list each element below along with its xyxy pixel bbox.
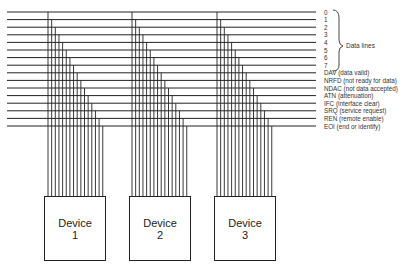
device-1-box: Device 1	[44, 196, 106, 261]
device-2-name: Device	[143, 217, 177, 229]
device-2-number: 2	[157, 229, 163, 241]
bus-diagram: 01234567DAV (data valid)NRFD (not ready …	[0, 0, 402, 271]
device-1-number: 1	[72, 229, 78, 241]
device-2-box: Device 2	[129, 196, 191, 261]
device-3-box: Device 3	[214, 196, 276, 261]
device-1-name: Device	[58, 217, 92, 229]
device-3-name: Device	[228, 217, 262, 229]
device-3-number: 3	[242, 229, 248, 241]
data-lines-label: Data lines	[346, 42, 375, 49]
